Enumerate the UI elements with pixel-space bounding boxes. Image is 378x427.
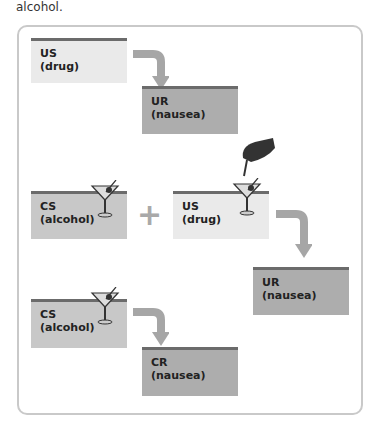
cr-label: CR (151, 356, 238, 369)
martini-glass-icon (90, 180, 120, 220)
cr-nausea-box: CR (nausea) (142, 347, 238, 396)
plus-sign: + (137, 200, 162, 230)
us-label: US (40, 47, 127, 60)
ur-nausea-box-2: UR (nausea) (253, 267, 349, 315)
arrow-icon (133, 308, 169, 350)
us-sub: (drug) (40, 60, 127, 73)
ur-sub: (nausea) (151, 108, 238, 121)
martini-glass-icon (90, 287, 120, 327)
us-drug-box-1: US (drug) (31, 38, 127, 83)
ur-label: UR (151, 95, 238, 108)
ur-sub: (nausea) (262, 289, 349, 302)
arrow-icon (276, 210, 312, 260)
ur-nausea-box-1: UR (nausea) (142, 86, 238, 134)
ur-label: UR (262, 276, 349, 289)
cr-sub: (nausea) (151, 369, 238, 382)
martini-glass-icon (232, 178, 262, 218)
caption-text: alcohol. (16, 0, 63, 14)
hand-dropper-icon (237, 136, 277, 178)
